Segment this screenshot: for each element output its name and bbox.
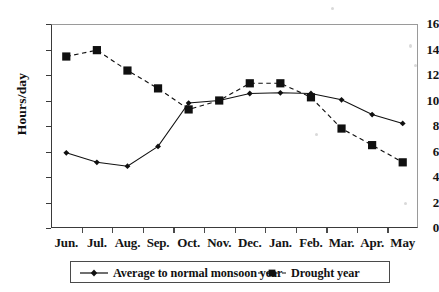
data-point bbox=[63, 150, 69, 156]
scan-speck bbox=[331, 7, 334, 10]
data-point bbox=[246, 79, 254, 87]
data-point bbox=[62, 52, 70, 60]
data-point bbox=[369, 112, 375, 118]
data-point bbox=[337, 124, 345, 132]
legend-label-drought: Drought year bbox=[291, 266, 360, 281]
legend: Average to normal monsoon year Drought y… bbox=[70, 261, 390, 283]
line-chart: Hours/day 1614121086420 Jun.Jul.Aug.Sep.… bbox=[0, 0, 439, 292]
data-point bbox=[125, 163, 131, 169]
series-average bbox=[63, 90, 405, 169]
series-line bbox=[66, 50, 402, 162]
data-point bbox=[339, 97, 345, 103]
scan-speck bbox=[315, 133, 318, 136]
data-point bbox=[307, 93, 315, 101]
data-point bbox=[93, 46, 101, 54]
data-point bbox=[247, 91, 253, 97]
data-point bbox=[123, 66, 131, 74]
data-point bbox=[185, 105, 193, 113]
data-point bbox=[368, 141, 376, 149]
data-point bbox=[276, 79, 284, 87]
data-point bbox=[399, 158, 407, 166]
data-point bbox=[215, 96, 223, 104]
data-point bbox=[400, 121, 406, 127]
legend-swatch-diamond-solid bbox=[79, 267, 109, 279]
data-point bbox=[94, 159, 100, 165]
data-point bbox=[154, 84, 162, 92]
scan-speck bbox=[414, 64, 417, 67]
data-point bbox=[277, 90, 283, 96]
legend-entry-drought: Drought year bbox=[257, 262, 360, 284]
legend-swatch-square-dashed bbox=[257, 267, 287, 279]
legend-entry-average: Average to normal monsoon year bbox=[79, 262, 282, 284]
scan-speck bbox=[404, 202, 407, 205]
series-layer bbox=[0, 0, 439, 292]
series-line bbox=[66, 93, 402, 166]
scan-speck bbox=[409, 44, 412, 48]
